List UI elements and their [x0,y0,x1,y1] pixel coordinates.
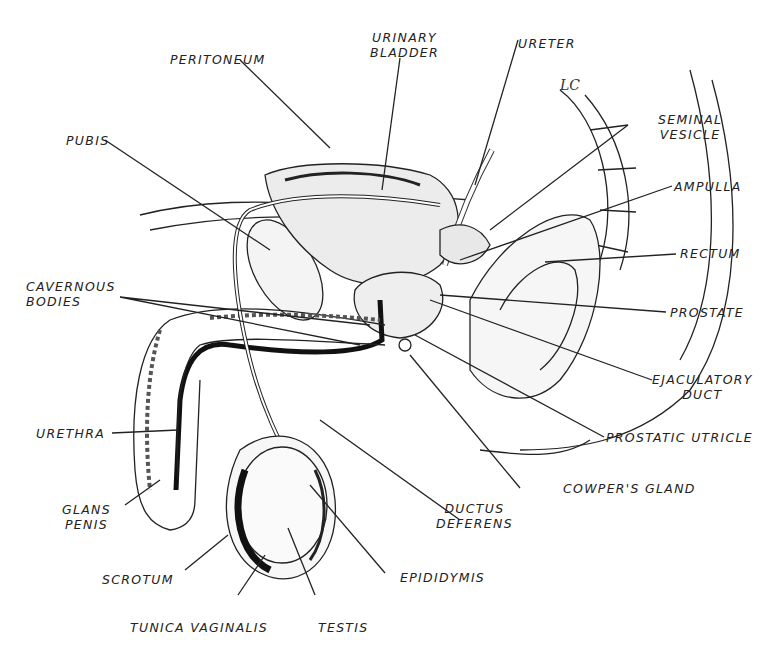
label-ejaculatory-duct: EJACULATORY DUCT [652,372,753,402]
label-cowpers-gland: COWPER'S GLAND [563,481,696,496]
label-testis: TESTIS [318,620,369,635]
label-ureter: URETER [518,36,576,51]
label-ductus-deferens: DUCTUS DEFERENS [436,501,513,531]
label-prostatic-utricle: PROSTATIC UTRICLE [606,430,753,445]
label-tunica-vaginalis: TUNICA VAGINALIS [130,620,268,635]
label-epididymis: EPIDIDYMIS [400,570,485,585]
label-scrotum: SCROTUM [102,572,174,587]
label-pubis: PUBIS [66,133,109,148]
anatomy-figure: LC PERITONEUM URINARY BLADDER URETER SEM… [0,0,782,654]
label-rectum: RECTUM [680,246,741,261]
pelvis-illustration: LC [0,0,782,654]
label-seminal-vesicle: SEMINAL VESICLE [658,112,722,142]
artist-mark: LC [559,77,580,93]
label-cavernous-bodies: CAVERNOUS BODIES [26,279,116,309]
label-glans-penis: GLANS PENIS [62,502,111,532]
label-urethra: URETHRA [36,426,105,441]
label-ampulla: AMPULLA [674,179,742,194]
label-urinary-bladder: URINARY BLADDER [370,30,439,60]
label-peritoneum: PERITONEUM [170,52,265,67]
label-prostate: PROSTATE [670,305,744,320]
